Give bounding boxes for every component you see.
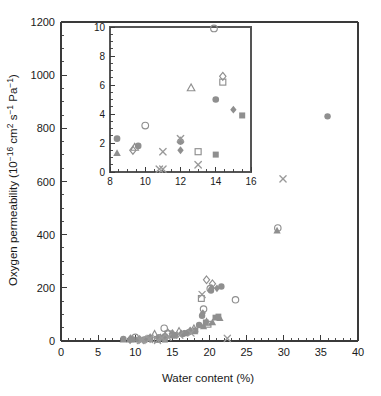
marker-circle-filled — [212, 96, 219, 103]
y-title-sup-neg1-b: −1 — [5, 78, 15, 88]
marker-circle-filled — [324, 113, 330, 119]
y-title-mid-s: s — [7, 114, 19, 123]
marker-square-filled — [213, 152, 219, 158]
inset-y-tick-label: 2 — [99, 138, 105, 149]
x-tick-label: 0 — [58, 346, 64, 358]
inset-y-tick-label: 4 — [99, 109, 105, 120]
oxygen-permeability-scatter-figure: 0510152025303540020040060080010001200 81… — [0, 0, 381, 396]
y-tick-label: 200 — [37, 282, 55, 294]
y-title-prefix: Oxygen permeability (10 — [7, 161, 19, 286]
inset-y-tick-label: 10 — [94, 22, 106, 33]
marker-circle-filled — [114, 135, 121, 142]
y-tick-label: 400 — [37, 229, 55, 241]
x-tick-label: 40 — [352, 346, 364, 358]
y-tick-label: 1200 — [31, 16, 55, 28]
y-title-sup-neg1-a: −1 — [5, 105, 15, 115]
y-title-mid-pa: Pa — [7, 87, 19, 105]
y-tick-label: 600 — [37, 176, 55, 188]
inset-y-tick-label: 0 — [99, 167, 105, 178]
inset-x-tick-label: 14 — [210, 176, 222, 187]
inset-x-tick-label: 16 — [245, 176, 257, 187]
inset-y-tick-label: 8 — [99, 51, 105, 62]
y-tick-label: 1000 — [31, 69, 55, 81]
y-axis-title: Oxygen permeability (10−16 cm2 s−1 Pa−1) — [5, 74, 19, 286]
y-title-sup-16: −16 — [5, 147, 15, 162]
x-tick-label: 10 — [129, 346, 141, 358]
marker-square-filled — [183, 330, 189, 336]
marker-square-filled — [215, 314, 221, 320]
inset-y-tick-label: 6 — [99, 80, 105, 91]
y-tick-label: 0 — [49, 335, 55, 347]
y-tick-label: 800 — [37, 122, 55, 134]
y-title-suffix: ) — [7, 74, 19, 78]
x-tick-label: 30 — [278, 346, 290, 358]
x-axis-title: Water content (%) — [162, 372, 254, 384]
marker-square-filled — [239, 112, 245, 118]
x-tick-label: 20 — [203, 346, 215, 358]
x-tick-label: 35 — [315, 346, 327, 358]
x-tick-label: 15 — [166, 346, 178, 358]
inset-x-tick-label: 10 — [140, 176, 152, 187]
x-tick-label: 25 — [241, 346, 253, 358]
inset-x-tick-label: 8 — [107, 176, 113, 187]
inset-x-tick-label: 12 — [175, 176, 187, 187]
x-tick-label: 5 — [95, 346, 101, 358]
y-title-mid-cm: cm — [7, 128, 19, 147]
chart-canvas: 0510152025303540020040060080010001200 81… — [0, 0, 381, 396]
